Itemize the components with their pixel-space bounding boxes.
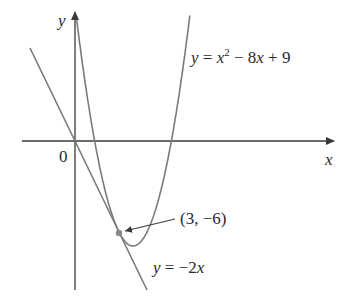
parabola-curve <box>77 16 190 247</box>
eq-x2: x <box>256 48 264 67</box>
eq-const: + 9 <box>264 48 291 67</box>
line-equation: y = −2x <box>153 259 204 276</box>
y-axis-label: y <box>58 12 66 29</box>
parabola-equation: y = x2 − 8x + 9 <box>191 47 290 66</box>
tangency-point <box>116 230 122 236</box>
point-label: (3, −6) <box>180 210 226 227</box>
annotation-arrow <box>125 219 175 231</box>
x-axis-label: x <box>325 151 333 168</box>
eq-equals: = <box>199 48 217 67</box>
line-eq-coef: = −2 <box>161 258 197 277</box>
tangent-line <box>30 48 147 290</box>
line-eq-y: y <box>153 258 161 277</box>
eq-term: − 8 <box>230 48 257 67</box>
origin-label: 0 <box>59 148 68 165</box>
eq-y: y <box>191 48 199 67</box>
line-eq-x: x <box>197 258 205 277</box>
